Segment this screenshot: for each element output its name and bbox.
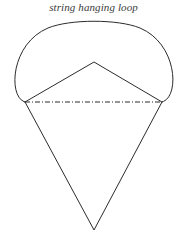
figure-root: string hanging loop — [0, 0, 187, 240]
parachute-diagram — [0, 0, 187, 240]
lower-triangle-path — [25, 102, 162, 230]
upper-triangle-path — [25, 62, 162, 102]
